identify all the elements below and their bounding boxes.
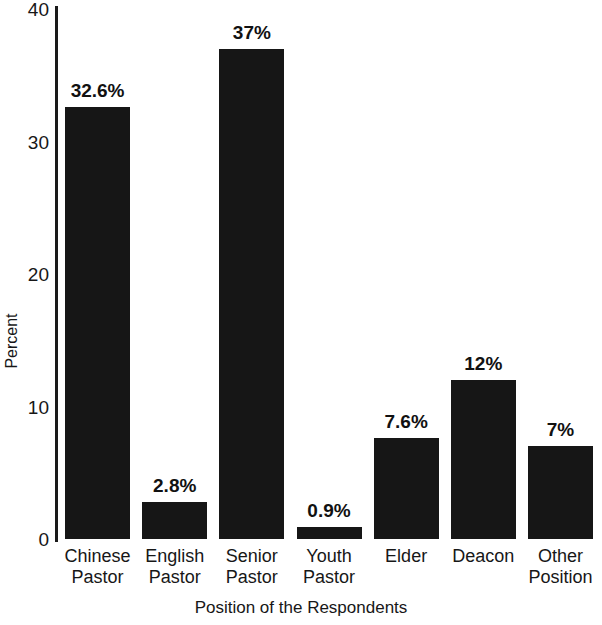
bar[interactable] (528, 446, 593, 539)
x-axis-tick-label-line (445, 567, 522, 588)
x-axis-tick-label: Deacon (445, 546, 522, 588)
bar-value-label: 32.6% (71, 81, 125, 100)
x-axis-tick-label: OtherPosition (522, 546, 599, 588)
bar[interactable] (374, 438, 439, 539)
bar-group: 37% (219, 8, 284, 539)
x-axis-tick-label-line: Pastor (290, 567, 367, 588)
bar-group: 2.8% (142, 8, 207, 539)
bar-group: 7.6% (374, 8, 439, 539)
x-axis-line (55, 539, 57, 542)
x-axis-tick-label-line: Position (522, 567, 599, 588)
bar[interactable] (142, 502, 207, 539)
x-axis-tick-label-line: Pastor (136, 567, 213, 588)
bar-group: 32.6% (65, 8, 130, 539)
x-axis-tick-label-line: Youth (290, 546, 367, 567)
x-axis-tick-label-line: Pastor (59, 567, 136, 588)
x-axis-tick-label-line: Chinese (59, 546, 136, 567)
x-axis-title: Position of the Respondents (0, 598, 602, 618)
x-axis-tick-label-line: Elder (368, 546, 445, 567)
bar-chart: 010203040 Percent 32.6%2.8%37%0.9%7.6%12… (0, 0, 602, 625)
y-axis-tick-label: 0 (3, 530, 49, 549)
bar-group: 7% (528, 8, 593, 539)
x-axis-tick-label: EnglishPastor (136, 546, 213, 588)
bar[interactable] (65, 107, 130, 539)
bar-value-label: 0.9% (307, 501, 350, 520)
plot-area: 32.6%2.8%37%0.9%7.6%12%7% (55, 8, 595, 539)
bar-group: 0.9% (297, 8, 362, 539)
y-axis-title: Percent (3, 296, 21, 386)
bar-value-label: 7.6% (384, 412, 427, 431)
x-axis-tick-label: ChinesePastor (59, 546, 136, 588)
x-axis-tick-label-line: Other (522, 546, 599, 567)
y-axis-tick-label: 20 (3, 265, 49, 284)
bar-value-label: 37% (233, 23, 271, 42)
x-axis-tick-label: YouthPastor (290, 546, 367, 588)
x-axis-tick-label: Elder (368, 546, 445, 588)
y-axis-tick-label: 30 (3, 132, 49, 151)
x-axis-tick-label-line: Deacon (445, 546, 522, 567)
x-axis-tick-label-line: Pastor (213, 567, 290, 588)
x-axis-tick-label-line (368, 567, 445, 588)
x-axis-tick-label-line: Senior (213, 546, 290, 567)
bar[interactable] (219, 49, 284, 539)
y-axis-tick-label: 40 (3, 0, 49, 19)
x-axis-tick-label: SeniorPastor (213, 546, 290, 588)
x-axis-tick-label-line: English (136, 546, 213, 567)
bar-value-label: 2.8% (153, 476, 196, 495)
bar-group: 12% (451, 8, 516, 539)
y-axis-tick-label: 10 (3, 397, 49, 416)
bar[interactable] (451, 380, 516, 539)
bar[interactable] (297, 527, 362, 539)
bar-value-label: 12% (464, 354, 502, 373)
bar-value-label: 7% (547, 420, 574, 439)
